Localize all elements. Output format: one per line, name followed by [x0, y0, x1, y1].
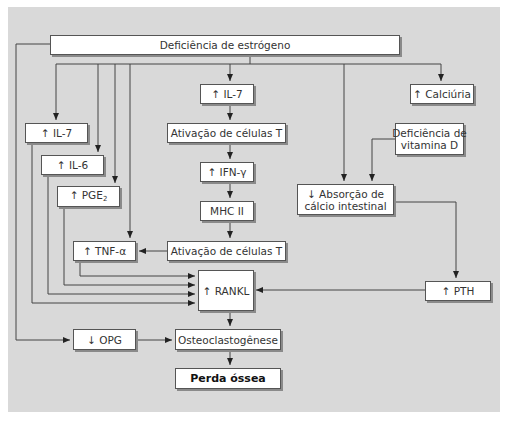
node-il7-left: ↑ IL-7 — [25, 123, 88, 143]
node-label: ↑ IL-7 — [211, 88, 242, 100]
node-label: ↑ IL-6 — [57, 159, 88, 171]
node-mhc2: MHC II — [200, 201, 254, 221]
node-label: Osteoclastogênese — [178, 334, 278, 346]
node-rankl: ↑ RANKL — [198, 270, 254, 311]
node-label: ↑ IL-7 — [41, 127, 72, 139]
node-label: Perda óssea — [190, 373, 266, 385]
node-pth: ↑ PTH — [425, 281, 491, 301]
node-tcell-activation-2: Ativação de células T — [167, 241, 286, 261]
node-opg: ↓ OPG — [73, 329, 136, 350]
node-label: Ativação de células T — [171, 245, 283, 257]
node-label: ↑ IFN-γ — [207, 166, 246, 178]
node-label: ↑ RANKL — [203, 285, 250, 297]
node-estrogen-deficiency: Deficiência de estrógeno — [50, 35, 400, 55]
node-label-line1: Deficiência de — [392, 127, 467, 139]
node-label-main: ↑ PGE — [70, 189, 103, 201]
node-tcell-activation-1: Ativação de células T — [167, 123, 286, 143]
node-calciuria: ↑ Calciúria — [410, 84, 474, 104]
node-osteoclastogenesis: Osteoclastogênese — [175, 329, 281, 350]
node-ifn-gamma: ↑ IFN-γ — [200, 162, 254, 182]
node-label-subscript: 2 — [103, 195, 107, 203]
node-pge2: ↑ PGE2 — [57, 186, 120, 207]
node-label-line2: cálcio intestinal — [304, 200, 386, 212]
node-il7-center: ↑ IL-7 — [200, 84, 254, 104]
node-label: ↑ TNF-α — [83, 245, 126, 257]
node-il6: ↑ IL-6 — [41, 155, 104, 175]
node-vitd-deficiency: Deficiência de vitamina D — [395, 123, 464, 155]
node-bone-loss: Perda óssea — [175, 368, 281, 389]
node-label: ↑ PTH — [442, 285, 475, 297]
node-tnf-alpha: ↑ TNF-α — [73, 241, 136, 261]
node-label: ↓ OPG — [87, 334, 122, 346]
node-label: Deficiência de estrógeno — [160, 39, 291, 51]
node-label: ↑ PGE2 — [70, 189, 108, 205]
node-calcium-absorption: ↓ Absorção de cálcio intestinal — [297, 184, 394, 215]
node-label: Ativação de células T — [171, 127, 283, 139]
node-label: ↑ Calciúria — [413, 88, 471, 100]
node-label: MHC II — [210, 205, 244, 217]
node-label-line2: vitamina D — [401, 139, 458, 151]
node-label-line1: ↓ Absorção de — [307, 188, 384, 200]
